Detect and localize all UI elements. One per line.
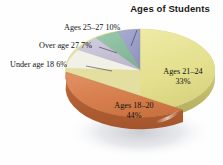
slice-label-ages-18-20-name: Ages 18–20 bbox=[114, 101, 153, 110]
slice-label-ages-21-24: Ages 21–24 33% bbox=[150, 67, 216, 86]
slice-label-ages-21-24-percent: 33% bbox=[150, 77, 216, 87]
slice-callout-over-age-27: Over age 27 7% bbox=[39, 42, 92, 51]
slice-label-ages-21-24-name: Ages 21–24 bbox=[163, 67, 202, 76]
slice-label-ages-18-20: Ages 18–20 44% bbox=[97, 101, 171, 120]
pie-chart-figure: Ages of Students bbox=[0, 0, 223, 165]
slice-label-ages-18-20-percent: 44% bbox=[97, 111, 171, 121]
slice-callout-ages-25-27: Ages 25–27 10% bbox=[64, 24, 120, 33]
slice-callout-under-age-18: Under age 18 6% bbox=[10, 61, 67, 70]
